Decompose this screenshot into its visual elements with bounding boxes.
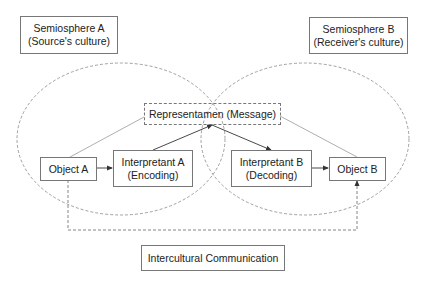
intercultural-communication-box: Intercultural Communication: [141, 245, 285, 271]
semiosphere-a-label-box: Semiosphere A (Source's culture): [20, 16, 118, 54]
semiosphere-a-ellipse: [17, 63, 225, 215]
representamen-label: Representamen (Message): [149, 108, 276, 121]
object-a-label: Object A: [49, 163, 89, 176]
semiosphere-b-label-box: Semiosphere B (Receiver's culture): [309, 17, 408, 54]
interpretant-b-title: Interpretant B: [240, 156, 304, 169]
interpretant-a-to-representamen-arrow: [153, 125, 212, 150]
object-b-node: Object B: [329, 157, 386, 181]
semiosphere-a-title: Semiosphere A: [33, 22, 104, 35]
interpretant-b-subtitle: (Decoding): [246, 169, 297, 182]
interpretant-a-title: Interpretant A: [121, 156, 184, 169]
interpretant-a-node: Interpretant A (Encoding): [113, 150, 193, 187]
interpretant-a-subtitle: (Encoding): [128, 169, 179, 182]
intercultural-communication-label: Intercultural Communication: [148, 252, 279, 265]
object-a-node: Object A: [40, 157, 97, 181]
intercultural-communication-dashed-arrow: [68, 180, 357, 230]
representamen-node: Representamen (Message): [144, 103, 281, 125]
semiosphere-b-subtitle: (Receiver's culture): [313, 36, 403, 49]
semiosphere-a-subtitle: (Source's culture): [28, 35, 110, 48]
representamen-to-interpretant-b-arrow: [212, 125, 271, 150]
interpretant-b-node: Interpretant B (Decoding): [231, 150, 312, 187]
semiosphere-b-ellipse: [201, 63, 409, 215]
object-b-label: Object B: [337, 163, 377, 176]
semiosphere-b-title: Semiosphere B: [323, 23, 395, 36]
